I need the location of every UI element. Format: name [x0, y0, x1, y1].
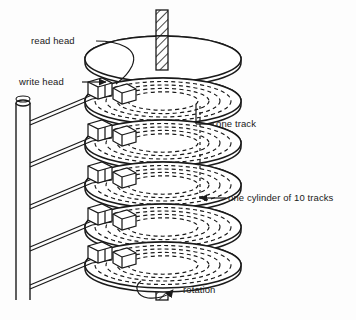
label-one-track: one track — [216, 119, 256, 129]
label-rotation: rotation — [183, 285, 216, 295]
diagram-canvas — [0, 0, 356, 320]
label-write-head: write head — [19, 77, 64, 87]
disk-pack-diagram: read head write head one track one cylin… — [0, 0, 356, 320]
label-read-head: read head — [31, 36, 75, 46]
label-one-cylinder: one cylinder of 10 tracks — [228, 193, 333, 203]
actuator-post — [16, 96, 30, 300]
